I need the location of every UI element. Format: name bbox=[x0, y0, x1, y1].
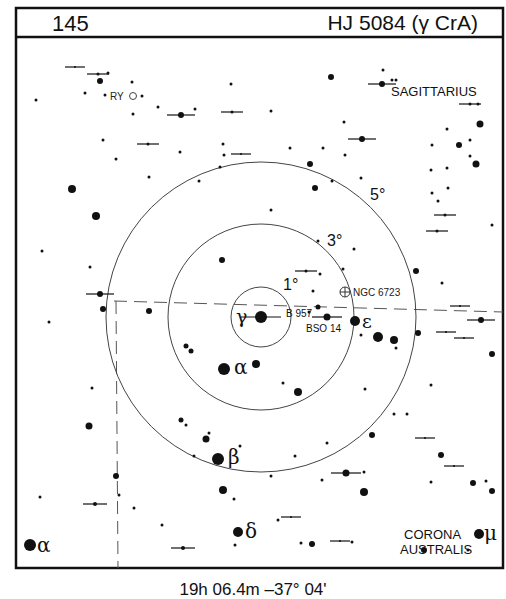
star bbox=[489, 488, 495, 494]
star bbox=[360, 177, 363, 180]
star bbox=[294, 388, 302, 396]
star bbox=[179, 418, 184, 423]
star bbox=[141, 95, 144, 98]
star bbox=[441, 282, 444, 285]
double-star bbox=[379, 81, 385, 87]
star-label: α bbox=[37, 533, 51, 557]
constellation-label: SAGITTARIUS bbox=[391, 84, 477, 99]
star bbox=[89, 266, 92, 269]
double-star bbox=[290, 516, 292, 518]
star bbox=[363, 471, 366, 474]
star bbox=[107, 72, 110, 75]
star bbox=[391, 79, 394, 82]
star bbox=[219, 257, 225, 263]
star bbox=[319, 273, 322, 276]
star bbox=[321, 479, 324, 482]
star bbox=[322, 147, 325, 150]
star bbox=[270, 209, 273, 212]
deep-sky-objects: NGC 6723RY bbox=[110, 91, 401, 298]
double-star bbox=[343, 470, 350, 477]
star bbox=[289, 147, 292, 150]
star bbox=[430, 384, 433, 387]
star bbox=[307, 161, 313, 167]
star bbox=[233, 498, 236, 501]
double-star bbox=[74, 66, 76, 68]
star bbox=[328, 74, 334, 80]
star bbox=[222, 143, 225, 146]
star bbox=[189, 349, 194, 354]
star bbox=[473, 161, 480, 168]
star bbox=[360, 334, 363, 337]
star bbox=[300, 542, 303, 545]
star bbox=[104, 94, 107, 97]
star bbox=[208, 432, 211, 435]
star bbox=[331, 180, 334, 183]
double-star bbox=[453, 465, 455, 467]
star bbox=[446, 128, 449, 131]
double-star bbox=[359, 136, 365, 142]
double-star bbox=[97, 73, 100, 76]
star bbox=[100, 306, 106, 312]
star bbox=[395, 79, 398, 82]
star bbox=[102, 139, 105, 142]
star bbox=[477, 121, 484, 128]
star bbox=[131, 81, 134, 84]
star bbox=[203, 436, 210, 443]
star bbox=[437, 200, 440, 203]
star bbox=[351, 541, 354, 544]
star bbox=[270, 110, 273, 113]
double-star bbox=[240, 153, 242, 155]
star bbox=[343, 121, 346, 124]
star bbox=[469, 155, 472, 158]
star bbox=[326, 442, 329, 445]
star bbox=[393, 413, 396, 416]
star bbox=[41, 250, 44, 253]
chart-title: HJ 5084 (γ CrA) bbox=[327, 11, 478, 35]
star bbox=[446, 167, 449, 170]
star bbox=[317, 240, 320, 243]
star bbox=[456, 142, 462, 148]
star bbox=[430, 169, 433, 172]
star bbox=[431, 144, 434, 147]
ring-label: 3° bbox=[327, 232, 342, 249]
star bbox=[316, 305, 321, 310]
double-star bbox=[324, 314, 331, 321]
star bbox=[48, 321, 51, 324]
star bbox=[438, 452, 444, 458]
double-star bbox=[147, 143, 150, 146]
star bbox=[113, 473, 119, 479]
star bbox=[132, 113, 135, 116]
star bbox=[194, 108, 197, 111]
star-label: β bbox=[228, 445, 240, 469]
star bbox=[84, 92, 87, 95]
double-star bbox=[339, 540, 341, 542]
star bbox=[282, 382, 285, 385]
double-star bbox=[463, 337, 465, 339]
star bbox=[252, 360, 260, 368]
star-label: BSO 14 bbox=[306, 323, 341, 334]
double-star bbox=[445, 331, 447, 333]
star bbox=[390, 336, 398, 344]
double-star bbox=[231, 111, 234, 114]
star bbox=[474, 529, 484, 539]
star bbox=[373, 332, 383, 342]
star bbox=[489, 351, 495, 357]
star bbox=[491, 224, 494, 227]
star-label: ε bbox=[362, 310, 372, 332]
star bbox=[431, 192, 434, 195]
double-star bbox=[436, 230, 439, 233]
star bbox=[161, 524, 164, 527]
star bbox=[35, 99, 38, 102]
star bbox=[198, 180, 201, 183]
double-star bbox=[93, 502, 97, 506]
star bbox=[118, 494, 121, 497]
star bbox=[193, 455, 196, 458]
star bbox=[312, 290, 315, 293]
star bbox=[350, 316, 360, 326]
star bbox=[91, 387, 94, 390]
star bbox=[212, 453, 224, 465]
star bbox=[342, 268, 345, 271]
variable-star-icon bbox=[130, 93, 137, 100]
center-coordinates: 19h 06.4m –37° 04' bbox=[0, 580, 506, 599]
